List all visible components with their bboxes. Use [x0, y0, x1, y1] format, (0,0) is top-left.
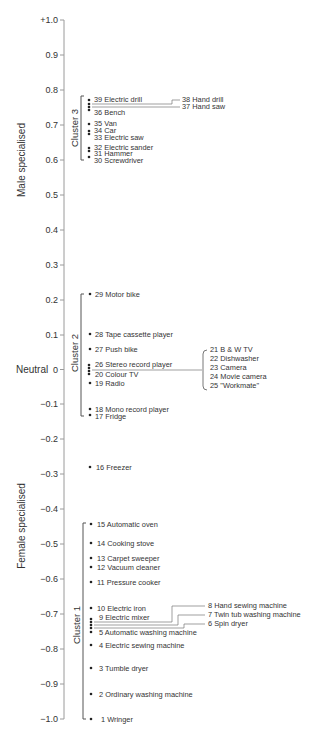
item-label: 3 Tumble dryer — [99, 664, 149, 673]
item-label: 6 Spin dryer — [208, 619, 248, 628]
item-label: 33 Electric saw — [94, 133, 144, 142]
tick-label: 0.7 — [45, 120, 58, 130]
tick-label: 0.3 — [45, 260, 58, 270]
tick-label: 0.5 — [45, 190, 58, 200]
item-label: 9 Electric mixer — [99, 613, 150, 622]
cluster-3-points — [88, 99, 91, 159]
item-label: 5 Automatic washing machine — [99, 628, 197, 637]
item-label: 1 Wringer — [101, 715, 133, 724]
y-axis-ticks — [60, 20, 64, 719]
item-label: 10 Electric iron — [97, 604, 146, 613]
tick-label: −0.5 — [40, 539, 58, 549]
tick-label: 0.9 — [45, 50, 58, 60]
cluster-1-label: Cluster 1 — [71, 606, 82, 644]
item-label: 36 Bench — [94, 108, 125, 117]
cluster-3-bracket — [81, 96, 84, 160]
region-label-male: Male specialised — [16, 123, 27, 197]
item-label: 15 Automatic oven — [97, 520, 158, 529]
item-label: 27 Push bike — [95, 345, 138, 354]
item-label: 25 "Workmate" — [210, 381, 259, 390]
tick-label: −0.9 — [40, 679, 58, 689]
item-label: 37 Hand saw — [182, 102, 226, 111]
tick-label: −0.8 — [40, 644, 58, 654]
item-label: 26 Stereo record player — [95, 360, 173, 369]
item-label: 28 Tape cassette player — [95, 330, 173, 339]
tick-label: 0 — [53, 365, 58, 375]
item-label: 4 Electric sewing machine — [99, 641, 184, 650]
tick-label: +1.0 — [40, 15, 58, 25]
item-label: 30 Screwdriver — [94, 156, 144, 165]
item-label: 22 Dishwasher — [210, 354, 259, 363]
data-point-16 — [89, 466, 92, 469]
item-label: 2 Ordinary washing machine — [99, 690, 193, 699]
item-label: 11 Pressure cooker — [97, 578, 161, 587]
item-label: 29 Motor bike — [95, 290, 140, 299]
item-label: 24 Movie camera — [210, 372, 268, 381]
tick-label: −1.0 — [40, 714, 58, 724]
tick-label: 0.6 — [45, 155, 58, 165]
item-label: 39 Electric drill — [94, 95, 142, 104]
item-label: 8 Hand sewing machine — [208, 601, 287, 610]
item-label: 12 Vacuum cleaner — [97, 563, 161, 572]
tick-label: −0.6 — [40, 574, 58, 584]
region-label-neutral: Neutral — [16, 364, 48, 375]
region-label-female: Female specialised — [16, 483, 27, 569]
gender-specialisation-chart: +1.0 0.9 0.8 0.7 0.6 0.5 0.4 0.3 0.2 0.1… — [0, 0, 313, 735]
cluster-2-label: Cluster 2 — [69, 334, 80, 372]
tick-label: −0.1 — [40, 399, 58, 409]
cluster-2-bracket — [81, 294, 84, 416]
tick-label: −0.7 — [40, 609, 58, 619]
group-brace-21-25 — [203, 350, 207, 390]
tick-label: 0.8 — [45, 85, 58, 95]
item-label: 19 Radio — [95, 379, 125, 388]
tick-label: 0.4 — [45, 225, 58, 235]
cluster-1-points — [90, 523, 93, 721]
cluster-1-bracket — [83, 523, 86, 719]
item-label: 16 Freezer — [96, 463, 132, 472]
item-label: 20 Colour TV — [95, 370, 138, 379]
tick-label: 0.1 — [45, 330, 58, 340]
tick-label: −0.4 — [40, 504, 58, 514]
cluster-2-points — [88, 293, 92, 417]
item-label: 17 Fridge — [95, 412, 126, 421]
item-label: 14 Cooking stove — [97, 539, 154, 548]
tick-label: 0.2 — [45, 295, 58, 305]
tick-label: −0.2 — [40, 434, 58, 444]
cluster-3-label: Cluster 3 — [69, 109, 80, 147]
item-label: 23 Camera — [210, 363, 247, 372]
item-label: 21 B & W TV — [210, 345, 253, 354]
tick-label: −0.3 — [40, 469, 58, 479]
item-label: 13 Carpet sweeper — [97, 554, 160, 563]
item-label: 7 Twin tub washing machine — [208, 610, 301, 619]
